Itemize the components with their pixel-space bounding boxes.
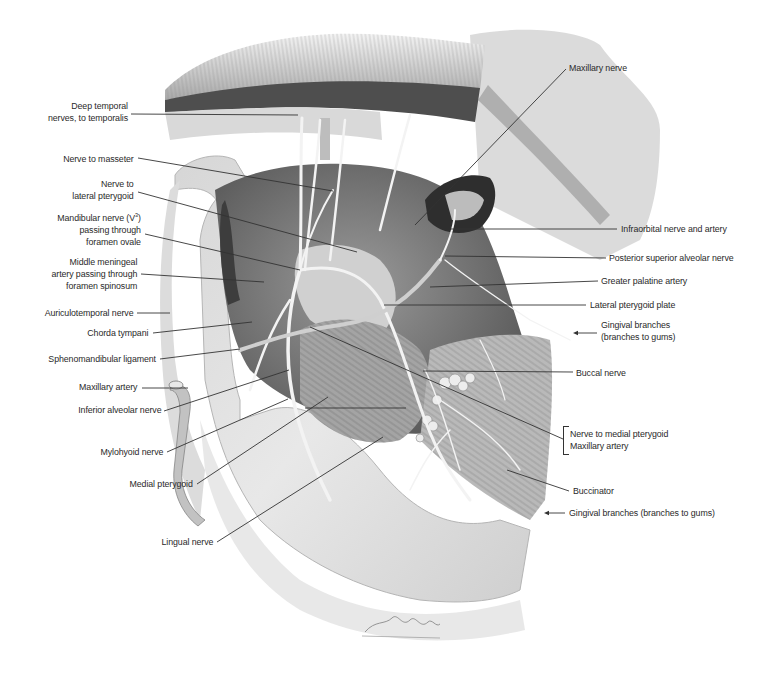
- label-line: Maxillary artery: [570, 440, 668, 452]
- label-lingual-nerve: Lingual nerve: [161, 536, 213, 548]
- label-line: artery passing through: [51, 268, 137, 280]
- arrowhead-icon: [573, 331, 578, 335]
- label-line: Chorda tympani: [87, 327, 148, 339]
- label-inferior-alveolar: Inferior alveolar nerve: [78, 404, 161, 416]
- label-line: Medial pterygoid: [130, 478, 193, 490]
- label-lateral-pterygoid-plate: Lateral pterygoid plate: [590, 299, 675, 311]
- label-buccinator: Buccinator: [573, 485, 614, 497]
- label-greater-palatine: Greater palatine artery: [601, 275, 687, 287]
- label-line: Lateral pterygoid plate: [590, 299, 675, 311]
- label-deep-temporal: Deep temporalnerves, to temporalis: [48, 100, 128, 124]
- label-posterior-superior-alveolar: Posterior superior alveolar nerve: [609, 252, 734, 264]
- label-line: Inferior alveolar nerve: [78, 404, 161, 416]
- label-nerve-to-masseter: Nerve to masseter: [63, 153, 134, 165]
- label-line: nerves, to temporalis: [48, 112, 128, 124]
- label-nerve-to-lateral-pterygoid: Nerve tolateral pterygoid: [73, 178, 134, 202]
- label-gingival-upper: Gingival branches(branches to gums): [601, 319, 675, 343]
- label-nerve-to-medial-pterygoid: Nerve to medial pterygoidMaxillary arter…: [570, 428, 668, 452]
- label-maxillary-nerve: Maxillary nerve: [569, 62, 627, 74]
- figure-stage: Deep temporalnerves, to temporalisNerve …: [0, 0, 768, 686]
- label-infraorbital: Infraorbital nerve and artery: [621, 223, 727, 235]
- label-line: Nerve to medial pterygoid: [570, 428, 668, 440]
- label-buccal-nerve: Buccal nerve: [576, 367, 626, 379]
- label-line: Auriculotemporal nerve: [44, 307, 133, 319]
- label-line: Mylohyoid nerve: [100, 446, 163, 458]
- label-bracket: [563, 426, 569, 455]
- zygomatic-arch-cut: [165, 108, 382, 160]
- label-line: Maxillary artery: [79, 381, 137, 393]
- label-line: Infraorbital nerve and artery: [621, 223, 727, 235]
- label-line: Posterior superior alveolar nerve: [609, 252, 734, 264]
- label-line: (branches to gums): [601, 331, 675, 343]
- label-gingival-lower: Gingival branches (branches to gums): [569, 507, 715, 519]
- label-line: Gingival branches (branches to gums): [569, 507, 715, 519]
- label-mandibular-nerve: Mandibular nerve (V3)passing throughfora…: [57, 212, 141, 248]
- label-middle-meningeal: Middle meningealartery passing throughfo…: [51, 256, 137, 292]
- label-auriculotemporal: Auriculotemporal nerve: [44, 307, 133, 319]
- label-line: Nerve to: [73, 178, 134, 190]
- label-line: Sphenomandibular ligament: [48, 353, 156, 365]
- label-line: Greater palatine artery: [601, 275, 687, 287]
- label-line: Nerve to masseter: [63, 153, 134, 165]
- label-line: Middle meningeal: [51, 256, 137, 268]
- label-line: Buccal nerve: [576, 367, 626, 379]
- label-chorda-tympani: Chorda tympani: [87, 327, 148, 339]
- label-line: Buccinator: [573, 485, 614, 497]
- label-medial-pterygoid: Medial pterygoid: [130, 478, 193, 490]
- label-line: passing through: [57, 224, 141, 236]
- label-line: Maxillary nerve: [569, 62, 627, 74]
- label-line: lateral pterygoid: [73, 190, 134, 202]
- label-line: Gingival branches: [601, 319, 675, 331]
- label-mylohyoid: Mylohyoid nerve: [100, 446, 163, 458]
- label-line: foramen spinosum: [51, 280, 137, 292]
- label-maxillary-artery-left: Maxillary artery: [79, 381, 137, 393]
- label-line: Lingual nerve: [161, 536, 213, 548]
- label-line: Deep temporal: [48, 100, 128, 112]
- label-line: Mandibular nerve (V3): [57, 212, 141, 224]
- arrowhead-icon: [544, 511, 549, 515]
- label-line: foramen ovale: [57, 236, 141, 248]
- label-sphenomandibular: Sphenomandibular ligament: [48, 353, 156, 365]
